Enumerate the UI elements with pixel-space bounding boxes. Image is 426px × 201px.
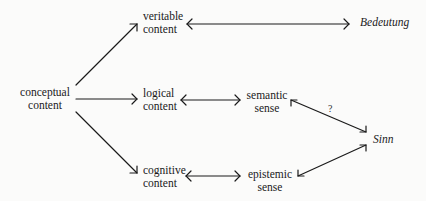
node-cognitive-content: cognitive content xyxy=(143,164,186,190)
node-conceptual-content-line2: content xyxy=(16,99,74,112)
edge-veritable-bedeutung xyxy=(187,19,349,29)
node-bedeutung-label: Bedeutung xyxy=(360,16,409,29)
diagram-canvas: conceptual content veritable content Bed… xyxy=(0,0,426,201)
node-epistemic-sense: epistemic sense xyxy=(245,168,295,194)
edge-logical-semantic xyxy=(181,95,240,105)
edge-epistemic-sinn xyxy=(298,145,366,176)
node-cognitive-content-line1: cognitive xyxy=(143,164,186,177)
edge-conceptual-veritable xyxy=(76,24,137,85)
node-veritable-content-line1: veritable xyxy=(143,10,183,23)
edge-label-question-mark: ? xyxy=(328,103,332,114)
node-logical-content-line2: content xyxy=(143,100,177,113)
node-semantic-sense: semantic sense xyxy=(244,89,290,115)
node-epistemic-sense-line2: sense xyxy=(245,181,295,194)
node-cognitive-content-line2: content xyxy=(143,177,186,190)
node-veritable-content-line2: content xyxy=(143,23,183,36)
node-bedeutung: Bedeutung xyxy=(360,16,409,29)
node-veritable-content: veritable content xyxy=(143,10,183,36)
node-logical-content: logical content xyxy=(143,87,177,113)
node-semantic-sense-line2: sense xyxy=(244,102,290,115)
edge-cognitive-epistemic xyxy=(186,171,240,181)
node-epistemic-sense-line1: epistemic xyxy=(245,168,295,181)
node-sinn-label: Sinn xyxy=(373,133,393,146)
edge-conceptual-cognitive xyxy=(76,112,137,173)
node-logical-content-line1: logical xyxy=(143,87,177,100)
edge-conceptual-logical xyxy=(76,94,137,104)
node-sinn: Sinn xyxy=(373,133,393,146)
node-conceptual-content-line1: conceptual xyxy=(16,86,74,99)
node-conceptual-content: conceptual content xyxy=(16,86,74,112)
node-semantic-sense-line1: semantic xyxy=(244,89,290,102)
